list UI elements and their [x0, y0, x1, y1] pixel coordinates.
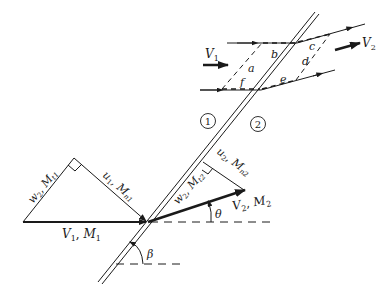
face-label-e: e — [280, 73, 287, 86]
wave-angle: β — [116, 243, 180, 264]
upstream-velocity-triangle: w2, Mt1 u1, Mn1 V1, M1 — [23, 158, 146, 243]
svg-text:1: 1 — [205, 116, 211, 127]
upstream-flow-arrow: V1 — [203, 47, 228, 65]
normal-velocity-label-2: u2, Mn2 — [214, 145, 254, 179]
downstream-flow-arrow: V2 — [335, 36, 376, 52]
resultant-velocity-label-2: V2, M2 — [231, 192, 272, 214]
tangential-velocity-label-2: w2, Mt2 — [171, 169, 208, 208]
normal-velocity-label-1: u1, Mn1 — [99, 168, 137, 204]
right-angle-marker — [68, 164, 82, 171]
oblique-shock-diagram: a b c d e f V1 V2 1 2 w2, Mt1 u1, Mn1 V1… — [0, 0, 391, 296]
downstream-velocity-triangle: w2, Mt2 u2, Mn2 V2, M2 — [148, 145, 272, 222]
svg-text:V1: V1 — [205, 47, 219, 63]
svg-text:2: 2 — [255, 119, 261, 130]
face-label-f: f — [239, 76, 246, 89]
region-1-marker: 1 — [201, 114, 216, 129]
face-label-a: a — [248, 62, 255, 75]
face-label-c: c — [309, 40, 315, 53]
face-label-d: d — [302, 55, 309, 68]
region-2-marker: 2 — [251, 117, 266, 132]
svg-text:V2: V2 — [362, 36, 376, 52]
svg-text:θ: θ — [215, 208, 222, 221]
right-angle-marker — [202, 168, 213, 174]
face-label-b: b — [271, 48, 278, 61]
resultant-velocity-label-1: V1, M1 — [62, 227, 101, 243]
svg-text:β: β — [146, 248, 153, 261]
tangential-velocity-label-1: w2, Mt1 — [25, 167, 61, 206]
